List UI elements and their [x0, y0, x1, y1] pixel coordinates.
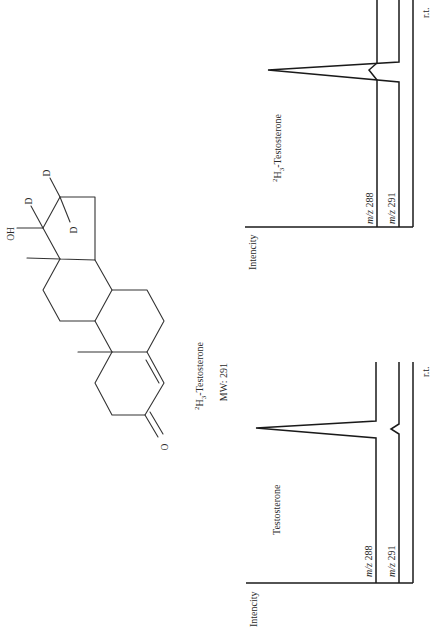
- b-ring: [95, 290, 164, 352]
- molecule-name: 2H3-Testosterone: [193, 341, 208, 410]
- chromatogram-labeled: 2H3-Testosterone m/z 288 m/z 291 Intenci…: [245, 0, 431, 270]
- molecule-mw: MW: 291: [218, 363, 229, 401]
- a-ring: [95, 352, 164, 415]
- svg-text:2H3-Testosterone: 2H3-Testosterone: [271, 113, 286, 182]
- trace-mz288: [256, 362, 376, 583]
- svg-text:m/z 291: m/z 291: [386, 546, 397, 577]
- y-axis-label-top: Intencity: [247, 234, 258, 270]
- carbonyl-bond-1: [145, 415, 158, 437]
- x-axis-label-top: r.t.: [420, 7, 431, 18]
- svg-text:m/z 288: m/z 288: [363, 546, 374, 577]
- chart-title-native: Testosterone: [271, 484, 282, 535]
- deuterium-label-1: D: [24, 197, 34, 204]
- d2-bond: [50, 178, 60, 197]
- chart-title-labeled: 2H3-Testosterone: [271, 113, 286, 182]
- c18-methyl-bond: [27, 258, 60, 259]
- oxygen-label: O: [160, 443, 170, 450]
- trace-label-mz288-bottom: m/z 288: [363, 546, 374, 577]
- d3-bond: [60, 197, 70, 222]
- trace-label-mz288-top: m/z 288: [364, 193, 375, 224]
- x-axis-label-bottom: r.t.: [420, 366, 431, 377]
- svg-text:m/z 291: m/z 291: [386, 193, 397, 224]
- svg-text:m/z 288: m/z 288: [364, 193, 375, 224]
- d1-bond: [31, 206, 43, 228]
- y-axis-label-bottom: Intencity: [248, 591, 259, 627]
- oh-label: OH: [6, 227, 16, 241]
- c-ring: [43, 259, 112, 321]
- carbonyl-bond-2: [150, 412, 163, 434]
- c4-c5-double-bond: [146, 360, 159, 383]
- testosterone-figure: OH D D D O 2H3-Testosterone MW: 291 2H3-…: [0, 0, 435, 630]
- trace-label-mz291-bottom: m/z 291: [386, 546, 397, 577]
- molecule-structure: OH D D D O 2H3-Testosterone MW: 291: [6, 169, 229, 450]
- trace-mz291: [268, 0, 399, 227]
- chromatogram-native: Testosterone m/z 288 m/z 291 Intencity r…: [246, 362, 431, 627]
- svg-text:2H3-Testosterone: 2H3-Testosterone: [193, 341, 208, 410]
- deuterium-label-3: D: [69, 226, 79, 233]
- deuterium-label-2: D: [42, 169, 52, 176]
- trace-label-mz291-top: m/z 291: [386, 193, 397, 224]
